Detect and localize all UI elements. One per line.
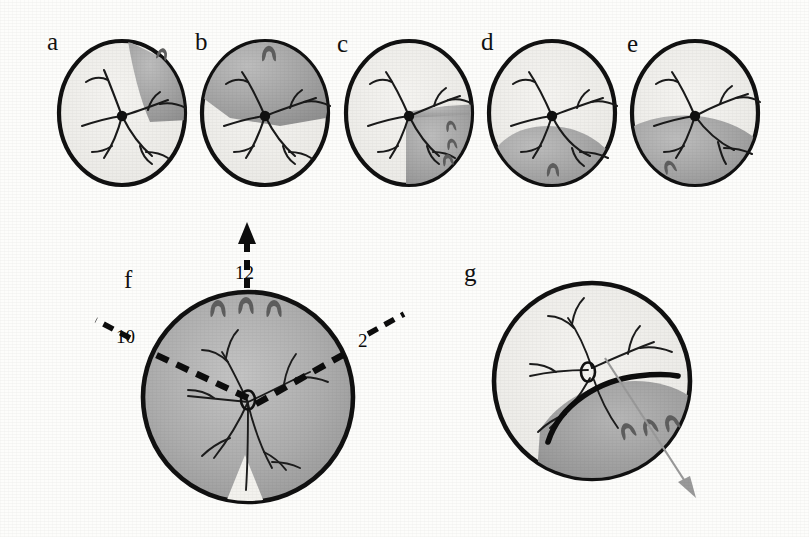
clock-ray-2-outer-f — [368, 314, 404, 334]
optic-disc-b — [260, 111, 270, 121]
panel-a — [59, 41, 190, 185]
figure-canvas — [0, 0, 809, 537]
optic-disc-d — [547, 111, 557, 121]
panel-e — [630, 41, 762, 192]
clock-label-10: 10 — [116, 326, 135, 348]
inferotemporal-progression-arrow-head — [678, 476, 696, 498]
superior-progression-arrow-head — [238, 222, 256, 244]
panel-label-g: g — [464, 259, 477, 287]
panel-label-f: f — [124, 266, 132, 294]
optic-disc-a — [117, 111, 127, 121]
panel-b — [202, 40, 330, 185]
optic-disc-e — [690, 111, 700, 121]
panel-label-e: e — [627, 30, 638, 58]
clock-label-2: 2 — [358, 330, 368, 352]
clock-label-12: 12 — [235, 262, 254, 284]
panel-label-b: b — [195, 28, 208, 56]
detachment-region-c — [406, 104, 480, 190]
panel-g — [494, 283, 702, 498]
panel-d — [489, 41, 618, 192]
panel-label-a: a — [47, 28, 58, 56]
panel-label-d: d — [481, 28, 494, 56]
panel-c — [346, 41, 480, 190]
panel-label-c: c — [337, 30, 348, 58]
optic-disc-c — [404, 111, 414, 121]
